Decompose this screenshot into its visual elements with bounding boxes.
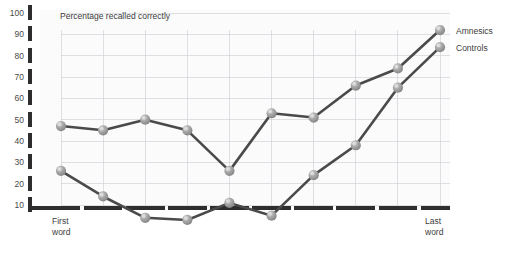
plot-area-background <box>40 10 450 208</box>
data-point-highlight <box>100 193 104 197</box>
x-label-last-word-line1: Last <box>425 216 442 226</box>
data-point-marker <box>266 108 276 118</box>
data-point-highlight <box>142 116 146 120</box>
data-point-highlight <box>58 122 62 126</box>
data-point-highlight <box>226 167 230 171</box>
y-axis-tick-label: 50 <box>15 115 25 125</box>
data-point-marker <box>98 191 108 201</box>
y-axis-tick-labels: 100908070605040302010 <box>10 8 24 210</box>
y-axis-tick-label: 20 <box>15 179 25 189</box>
data-point-highlight <box>394 84 398 88</box>
y-axis-tick-label: 100 <box>10 8 24 18</box>
data-point-highlight <box>184 127 188 131</box>
x-label-first-word-line2: word <box>51 227 71 237</box>
legend: Amnesics Controls <box>456 26 493 53</box>
data-point-marker <box>266 211 276 221</box>
x-label-last-word-line2: word <box>424 227 444 237</box>
data-point-marker <box>182 125 192 135</box>
data-point-marker <box>56 166 66 176</box>
data-point-highlight <box>268 110 272 114</box>
y-axis-tick-label: 40 <box>15 136 25 146</box>
y-axis-tick-label: 60 <box>15 93 25 103</box>
data-point-highlight <box>310 171 314 175</box>
data-point-highlight <box>394 65 398 69</box>
data-point-marker <box>393 83 403 93</box>
data-point-highlight <box>352 142 356 146</box>
y-axis-tick-label: 80 <box>15 51 25 61</box>
legend-item-controls: Controls <box>456 43 488 53</box>
data-point-marker <box>351 140 361 150</box>
x-label-first-word-line1: First <box>52 216 69 226</box>
x-axis-category-labels: First word Last word <box>51 216 444 237</box>
data-point-marker <box>140 115 150 125</box>
legend-item-amnesics: Amnesics <box>456 26 493 36</box>
data-point-marker <box>435 42 445 52</box>
chart-container: 100908070605040302010 Percentage recalle… <box>0 0 509 257</box>
y-axis-tick-label: 30 <box>15 157 25 167</box>
data-point-marker <box>309 170 319 180</box>
chart-title: Percentage recalled correctly <box>60 11 171 21</box>
data-point-marker <box>56 121 66 131</box>
data-point-marker <box>224 198 234 208</box>
data-point-highlight <box>437 26 441 30</box>
data-point-highlight <box>268 212 272 216</box>
data-point-highlight <box>100 127 104 131</box>
data-point-highlight <box>437 43 441 47</box>
y-axis-tick-label: 70 <box>15 72 25 82</box>
data-point-marker <box>309 112 319 122</box>
data-point-marker <box>435 25 445 35</box>
y-axis-tick-label: 10 <box>15 200 25 210</box>
data-point-marker <box>98 125 108 135</box>
data-point-highlight <box>184 216 188 220</box>
data-point-highlight <box>226 199 230 203</box>
data-point-highlight <box>310 114 314 118</box>
data-point-marker <box>351 80 361 90</box>
data-point-marker <box>182 215 192 225</box>
data-point-highlight <box>142 214 146 218</box>
data-point-marker <box>393 63 403 73</box>
data-point-highlight <box>58 167 62 171</box>
y-axis-tick-label: 90 <box>15 29 25 39</box>
serial-position-line-chart: 100908070605040302010 Percentage recalle… <box>0 0 509 257</box>
data-point-marker <box>224 166 234 176</box>
data-point-marker <box>140 213 150 223</box>
data-point-highlight <box>352 82 356 86</box>
